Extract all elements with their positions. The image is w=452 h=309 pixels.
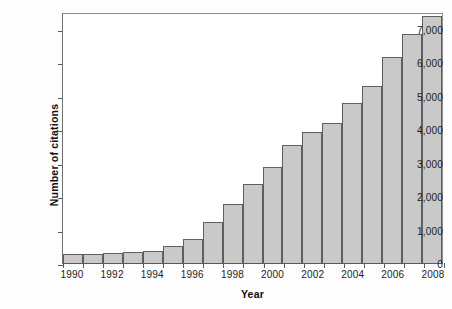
- x-tick-label: 2000: [261, 269, 284, 280]
- y-axis-title: Number of citations: [48, 103, 60, 205]
- x-tick-mark: [384, 263, 385, 268]
- x-tick-mark: [304, 263, 305, 268]
- bar-1992: [103, 253, 123, 263]
- bar-1991: [83, 254, 103, 263]
- x-tick-mark: [364, 263, 365, 268]
- x-tick-label: 2008: [421, 269, 444, 280]
- x-tick-mark: [123, 263, 124, 268]
- bar-1998: [223, 204, 243, 263]
- bar-2003: [322, 123, 342, 263]
- x-tick-mark: [203, 263, 204, 268]
- y-tick-label: 4,000: [417, 125, 443, 136]
- x-tick-mark: [103, 263, 104, 268]
- y-tick-label: 0: [437, 259, 443, 270]
- x-tick-mark: [324, 263, 325, 268]
- bar-2002: [302, 132, 322, 263]
- x-tick-mark: [344, 263, 345, 268]
- x-tick-mark: [404, 263, 405, 268]
- bar-1997: [203, 222, 223, 263]
- y-tick-label: 2,000: [417, 192, 443, 203]
- x-tick-mark: [183, 263, 184, 268]
- y-tick-label: 6,000: [417, 58, 443, 69]
- x-tick-label: 1996: [181, 269, 204, 280]
- bar-series: [63, 14, 442, 263]
- y-tick-label: 5,000: [417, 91, 443, 102]
- chart-page: Number of citations 01,0002,0003,0004,00…: [0, 0, 452, 309]
- x-tick-mark: [143, 263, 144, 268]
- x-tick-mark: [63, 263, 64, 268]
- x-tick-mark: [264, 263, 265, 268]
- x-tick-label: 2002: [301, 269, 324, 280]
- x-tick-label: 1998: [221, 269, 244, 280]
- x-tick-mark: [83, 263, 84, 268]
- bar-2004: [342, 103, 362, 263]
- plot-area: [62, 13, 443, 264]
- x-tick-mark: [284, 263, 285, 268]
- bar-1990: [63, 254, 83, 263]
- bar-2006: [382, 57, 402, 263]
- bar-2005: [362, 86, 382, 263]
- bar-2001: [282, 145, 302, 263]
- x-tick-label: 1992: [101, 269, 124, 280]
- x-tick-mark: [223, 263, 224, 268]
- y-tick-label: 3,000: [417, 158, 443, 169]
- bar-1999: [243, 184, 263, 263]
- x-tick-label: 2006: [381, 269, 404, 280]
- y-tick-label: 1,000: [417, 225, 443, 236]
- x-tick-label: 1994: [141, 269, 164, 280]
- x-tick-label: 2004: [341, 269, 364, 280]
- bar-1993: [123, 252, 143, 263]
- x-tick-mark: [163, 263, 164, 268]
- x-tick-mark: [243, 263, 244, 268]
- bar-1996: [183, 239, 203, 263]
- x-tick-label: 1990: [60, 269, 83, 280]
- bar-1994: [143, 251, 163, 263]
- x-axis-title: Year: [62, 288, 443, 300]
- y-tick-label: 7,000: [417, 24, 443, 35]
- x-tick-mark: [444, 263, 445, 268]
- bar-2000: [263, 167, 283, 263]
- x-tick-mark: [424, 263, 425, 268]
- bar-1995: [163, 246, 183, 263]
